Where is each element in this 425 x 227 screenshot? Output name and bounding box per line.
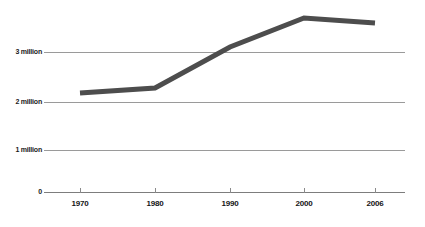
series-layer (0, 0, 425, 227)
plot-area: 3 million 2 million 1 million 0 1970 198… (0, 0, 425, 227)
line-chart: 3 million 2 million 1 million 0 1970 198… (0, 0, 425, 227)
data-series-line (80, 18, 375, 93)
